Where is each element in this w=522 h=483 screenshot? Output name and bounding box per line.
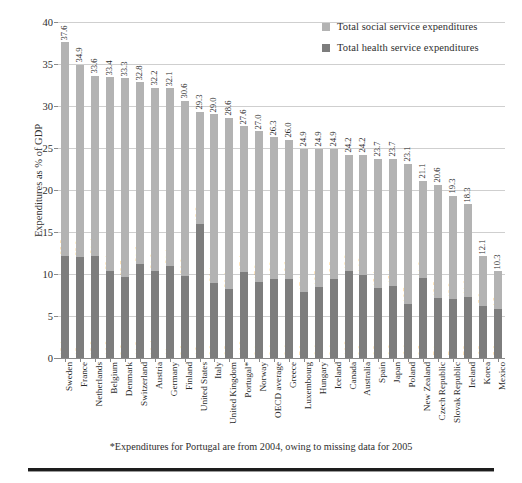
bar-column[interactable]: 19.312.37 bbox=[445, 22, 460, 358]
bar-column[interactable]: 21.111.69.5 bbox=[416, 22, 431, 358]
bar-segment-social[interactable] bbox=[61, 42, 69, 256]
bar-segment-health[interactable] bbox=[315, 287, 323, 358]
bar-segment-social[interactable] bbox=[166, 88, 174, 265]
bar-segment-health[interactable] bbox=[419, 278, 427, 358]
bar-stack[interactable] bbox=[285, 140, 293, 358]
bar-stack[interactable] bbox=[494, 271, 502, 358]
bar-segment-health[interactable] bbox=[196, 224, 204, 358]
bar-segment-health[interactable] bbox=[76, 257, 84, 358]
bar-column[interactable]: 32.221.810.4 bbox=[147, 22, 162, 358]
bar-stack[interactable] bbox=[210, 114, 218, 358]
bar-stack[interactable] bbox=[315, 149, 323, 358]
bar-segment-social[interactable] bbox=[255, 131, 263, 281]
bar-segment-social[interactable] bbox=[151, 88, 159, 271]
bar-segment-health[interactable] bbox=[240, 272, 248, 358]
bar-stack[interactable] bbox=[404, 164, 412, 358]
bar-segment-health[interactable] bbox=[330, 279, 338, 358]
bar-segment-health[interactable] bbox=[151, 271, 159, 358]
bar-column[interactable]: 37.625.512.1 bbox=[58, 22, 73, 358]
bar-stack[interactable] bbox=[434, 185, 442, 358]
bar-segment-health[interactable] bbox=[270, 279, 278, 358]
bar-segment-health[interactable] bbox=[166, 266, 174, 358]
bar-segment-health[interactable] bbox=[449, 299, 457, 358]
bar-segment-social[interactable] bbox=[181, 101, 189, 276]
bar-segment-health[interactable] bbox=[255, 282, 263, 358]
bar-stack[interactable] bbox=[345, 155, 353, 358]
bar-stack[interactable] bbox=[300, 149, 308, 358]
bar-column[interactable]: 23.715.48.3 bbox=[371, 22, 386, 358]
bar-segment-social[interactable] bbox=[225, 118, 233, 289]
bar-stack[interactable] bbox=[181, 101, 189, 358]
bar-stack[interactable] bbox=[76, 65, 84, 358]
bar-stack[interactable] bbox=[61, 42, 69, 358]
bar-stack[interactable] bbox=[91, 76, 99, 358]
bar-stack[interactable] bbox=[121, 78, 129, 358]
bar-segment-social[interactable] bbox=[419, 181, 427, 278]
bar-segment-health[interactable] bbox=[181, 276, 189, 358]
bar-segment-health[interactable] bbox=[300, 292, 308, 358]
bar-segment-health[interactable] bbox=[121, 277, 129, 358]
bar-stack[interactable] bbox=[389, 159, 397, 358]
bar-column[interactable]: 20.613.57.1 bbox=[431, 22, 446, 358]
bar-column[interactable]: 29.313.316 bbox=[192, 22, 207, 358]
bar-stack[interactable] bbox=[255, 131, 263, 358]
bar-segment-health[interactable] bbox=[374, 288, 382, 358]
bar-segment-social[interactable] bbox=[449, 196, 457, 299]
bar-segment-social[interactable] bbox=[240, 126, 248, 272]
bar-segment-health[interactable] bbox=[210, 283, 218, 358]
bar-stack[interactable] bbox=[330, 149, 338, 358]
bar-stack[interactable] bbox=[419, 181, 427, 358]
bar-stack[interactable] bbox=[270, 137, 278, 358]
bar-column[interactable]: 26.016.69.4 bbox=[282, 22, 297, 358]
bar-segment-health[interactable] bbox=[434, 298, 442, 358]
bar-stack[interactable] bbox=[240, 126, 248, 358]
bar-stack[interactable] bbox=[359, 155, 367, 358]
bar-segment-social[interactable] bbox=[494, 271, 502, 309]
bar-column[interactable]: 32.121.111 bbox=[162, 22, 177, 358]
bar-segment-social[interactable] bbox=[345, 155, 353, 272]
bar-column[interactable]: 23.715.18.6 bbox=[386, 22, 401, 358]
bar-segment-health[interactable] bbox=[106, 271, 114, 358]
bar-column[interactable]: 24.213.910.3 bbox=[341, 22, 356, 358]
bar-column[interactable]: 28.620.48.2 bbox=[222, 22, 237, 358]
bar-segment-social[interactable] bbox=[434, 185, 442, 298]
bar-column[interactable]: 34.922.912 bbox=[73, 22, 88, 358]
bar-segment-health[interactable] bbox=[464, 297, 472, 358]
bar-stack[interactable] bbox=[449, 196, 457, 358]
bar-segment-social[interactable] bbox=[76, 65, 84, 257]
bar-stack[interactable] bbox=[196, 112, 204, 358]
bar-stack[interactable] bbox=[166, 88, 174, 358]
bar-segment-health[interactable] bbox=[61, 256, 69, 358]
bar-segment-social[interactable] bbox=[210, 114, 218, 283]
bar-segment-health[interactable] bbox=[359, 275, 367, 358]
bar-segment-social[interactable] bbox=[91, 76, 99, 256]
bar-stack[interactable] bbox=[225, 118, 233, 358]
bar-segment-health[interactable] bbox=[91, 256, 99, 358]
bar-segment-social[interactable] bbox=[374, 159, 382, 288]
bar-stack[interactable] bbox=[151, 88, 159, 358]
bar-column[interactable]: 23.116.76.4 bbox=[401, 22, 416, 358]
bar-segment-health[interactable] bbox=[494, 309, 502, 358]
bar-column[interactable]: 26.316.99.4 bbox=[267, 22, 282, 358]
bar-segment-health[interactable] bbox=[285, 279, 293, 358]
bar-segment-social[interactable] bbox=[404, 164, 412, 304]
bar-segment-social[interactable] bbox=[359, 155, 367, 275]
bar-column[interactable]: 24.915.59.4 bbox=[326, 22, 341, 358]
bar-column[interactable]: 24.916.58.4 bbox=[311, 22, 326, 358]
bar-segment-social[interactable] bbox=[285, 140, 293, 279]
bar-column[interactable]: 18.311.07.3 bbox=[460, 22, 475, 358]
bar-column[interactable]: 24.917.17.8 bbox=[296, 22, 311, 358]
bar-segment-health[interactable] bbox=[479, 306, 487, 358]
bar-segment-social[interactable] bbox=[270, 137, 278, 279]
bar-column[interactable]: 30.620.89.8 bbox=[177, 22, 192, 358]
bar-stack[interactable] bbox=[464, 204, 472, 358]
bar-stack[interactable] bbox=[374, 159, 382, 358]
bar-segment-social[interactable] bbox=[121, 78, 129, 277]
bar-segment-social[interactable] bbox=[315, 149, 323, 288]
bar-segment-social[interactable] bbox=[136, 82, 144, 263]
bar-segment-health[interactable] bbox=[136, 264, 144, 358]
bar-column[interactable]: 27.017.99.1 bbox=[252, 22, 267, 358]
bar-column[interactable]: 32.821.611.2 bbox=[133, 22, 148, 358]
bar-column[interactable]: 10.34.55.8 bbox=[490, 22, 505, 358]
bar-column[interactable]: 33.423.110.3 bbox=[103, 22, 118, 358]
